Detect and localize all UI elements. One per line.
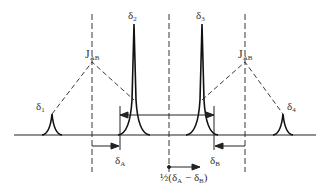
- label-delta1: δ1: [36, 100, 45, 114]
- peak-delta3: [186, 24, 218, 135]
- label-deltaA: δA: [115, 154, 125, 168]
- center-arrow: [168, 164, 201, 170]
- peak-delta4: [273, 114, 293, 135]
- peak-delta2: [118, 24, 150, 135]
- label-delta2: δ2: [128, 9, 137, 23]
- label-jab-left: JAB: [85, 47, 100, 62]
- label-deltaB: δB: [210, 154, 220, 168]
- label-delta3: δ3: [196, 9, 205, 23]
- deltaA-arrow: [92, 143, 119, 149]
- peaks: [42, 24, 293, 135]
- triangle-left: [52, 62, 134, 114]
- jab-triangles: [52, 62, 283, 114]
- label-jab-right: JAB: [238, 47, 253, 62]
- peak-delta1: [42, 114, 62, 135]
- arrowhead-right: [206, 112, 214, 118]
- ab-spin-system-diagram: δ1 δ2 δ3 δ4 JAB JAB δA δB ½(δA − δB): [0, 0, 335, 196]
- arrowhead-left: [120, 112, 128, 118]
- separation-arrow: [120, 106, 214, 150]
- label-center-half-difference: ½(δA − δB): [160, 171, 208, 185]
- label-delta4: δ4: [287, 100, 296, 114]
- deltaB-arrow: [215, 143, 245, 149]
